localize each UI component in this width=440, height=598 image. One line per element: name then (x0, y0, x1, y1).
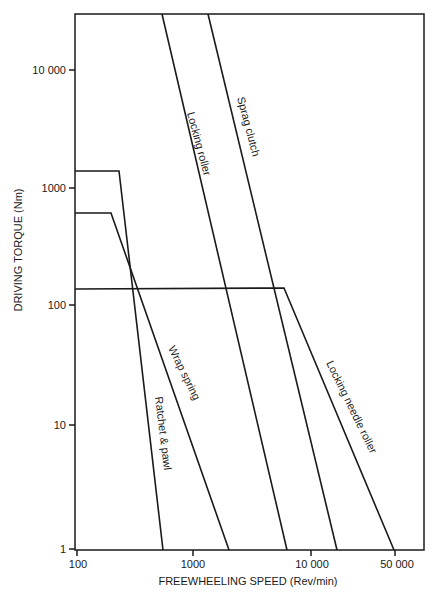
torque-speed-chart: 10 000 1000 100 10 1 100 1000 10 000 50 … (0, 0, 440, 598)
y-axis-label: DRIVING TORQUE (Nm) (12, 188, 24, 311)
y-tick-10: 10 (54, 419, 66, 431)
series-wrap-spring (75, 213, 229, 550)
y-axis (69, 70, 75, 549)
label-sprag-clutch: Sprag clutch (235, 95, 262, 157)
x-tick-10000: 10 000 (295, 558, 329, 570)
series-ratchet-pawl (75, 171, 163, 550)
label-locking-needle-roller: Locking needle roller (324, 359, 379, 456)
x-tick-50000: 50 000 (380, 558, 414, 570)
series-locking-roller (162, 14, 287, 550)
label-wrap-spring: Wrap spring (166, 344, 203, 402)
y-tick-100: 100 (48, 299, 66, 311)
label-locking-roller: Locking roller (185, 110, 214, 177)
x-tick-100: 100 (69, 558, 87, 570)
series-sprag-clutch (208, 14, 337, 550)
x-axis (77, 550, 395, 556)
x-tick-1000: 1000 (181, 558, 205, 570)
label-ratchet-pawl: Ratchet & pawl (153, 396, 174, 471)
y-tick-1000: 1000 (42, 182, 66, 194)
x-axis-label: FREEWHEELING SPEED (Rev/min) (158, 575, 337, 587)
plot-frame (75, 14, 424, 550)
y-tick-1: 1 (60, 543, 66, 555)
y-tick-10000: 10 000 (32, 64, 66, 76)
